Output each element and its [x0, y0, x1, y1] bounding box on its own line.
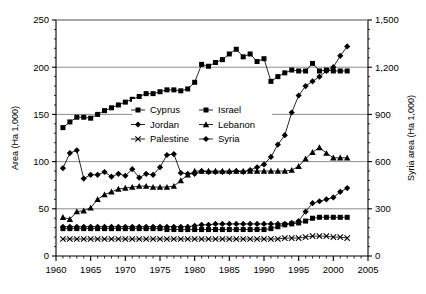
data-point-marker [324, 215, 329, 220]
y-tick-label: 200 [33, 62, 49, 73]
data-point-marker [227, 51, 232, 56]
data-point-marker [171, 87, 176, 92]
x-tick-label: 2005 [357, 264, 378, 275]
data-point-marker [137, 226, 142, 231]
data-point-marker [255, 59, 260, 64]
data-point-marker [102, 108, 107, 113]
y2-axis-title: Syria area (Ha 1,000) [406, 95, 416, 181]
data-point-marker [158, 226, 163, 231]
chart-background [0, 0, 426, 294]
data-point-marker [144, 91, 149, 96]
data-point-marker [262, 56, 267, 61]
data-point-marker [275, 74, 280, 79]
y-tick-label: 150 [33, 109, 49, 120]
data-point-marker [282, 222, 287, 227]
line-chart: 05010015020025003006009001,2001,50019601… [0, 0, 426, 294]
y-tick-label: 0 [44, 250, 49, 261]
data-point-marker [164, 227, 169, 232]
data-point-marker [178, 88, 183, 93]
data-point-marker [74, 115, 79, 120]
data-point-marker [123, 100, 128, 105]
x-tick-label: 1965 [80, 264, 101, 275]
data-point-marker [296, 68, 301, 73]
data-point-marker [206, 227, 211, 232]
data-point-marker [199, 62, 204, 67]
data-point-marker [171, 227, 176, 232]
data-point-marker [262, 227, 267, 232]
y2-tick-label: 600 [375, 156, 391, 167]
y2-tick-label: 1,200 [375, 62, 399, 73]
data-point-marker [204, 108, 209, 113]
data-point-marker [74, 226, 79, 231]
y-tick-label: 100 [33, 156, 49, 167]
data-point-marker [137, 94, 142, 99]
data-point-marker [151, 91, 156, 96]
data-point-marker [345, 68, 350, 73]
x-tick-label: 1990 [253, 264, 274, 275]
data-point-marker [227, 227, 232, 232]
data-point-marker [282, 70, 287, 75]
y2-tick-label: 900 [375, 109, 391, 120]
legend-label: Cyprus [150, 104, 180, 115]
x-tick-label: 1975 [149, 264, 170, 275]
data-point-marker [81, 226, 86, 231]
data-point-marker [88, 116, 93, 121]
data-point-marker [158, 89, 163, 94]
data-point-marker [241, 54, 246, 59]
data-point-marker [130, 226, 135, 231]
data-point-marker [310, 61, 315, 66]
data-point-marker [220, 57, 225, 62]
data-point-marker [213, 227, 218, 232]
data-point-marker [248, 51, 253, 56]
data-point-marker [289, 68, 294, 73]
y-tick-label: 250 [33, 14, 49, 25]
data-point-marker [185, 86, 190, 91]
data-point-marker [248, 227, 253, 232]
data-point-marker [60, 125, 65, 130]
data-point-marker [151, 226, 156, 231]
data-point-marker [67, 119, 72, 124]
legend-label: Lebanon [218, 119, 255, 130]
data-point-marker [102, 226, 107, 231]
data-point-marker [67, 226, 72, 231]
y2-tick-label: 0 [375, 250, 380, 261]
data-point-marker [109, 226, 114, 231]
data-point-marker [220, 227, 225, 232]
data-point-marker [234, 227, 239, 232]
data-point-marker [310, 216, 315, 221]
legend-label: Palestine [150, 133, 189, 144]
data-point-marker [206, 64, 211, 69]
data-point-marker [296, 220, 301, 225]
data-point-marker [275, 224, 280, 229]
y-tick-label: 50 [38, 203, 49, 214]
data-point-marker [116, 102, 121, 107]
data-point-marker [199, 227, 204, 232]
legend-label: Syria [218, 133, 240, 144]
x-tick-label: 1980 [184, 264, 205, 275]
data-point-marker [144, 226, 149, 231]
data-point-marker [95, 112, 100, 117]
y2-tick-label: 1,500 [375, 14, 399, 25]
data-point-marker [255, 227, 260, 232]
x-tick-label: 1970 [115, 264, 136, 275]
data-point-marker [109, 105, 114, 110]
data-point-marker [164, 87, 169, 92]
data-point-marker [123, 226, 128, 231]
data-point-marker [331, 215, 336, 220]
data-point-marker [81, 115, 86, 120]
data-point-marker [289, 221, 294, 226]
legend: CyprusIsraelJordanLebanonPalestineSyria [131, 99, 272, 147]
data-point-marker [116, 226, 121, 231]
data-point-marker [192, 80, 197, 85]
data-point-marker [303, 219, 308, 224]
data-point-marker [234, 47, 239, 52]
data-point-marker [268, 79, 273, 84]
data-point-marker [317, 215, 322, 220]
y-axis-title: Area (Ha 1,000) [10, 106, 20, 170]
data-point-marker [136, 108, 141, 113]
data-point-marker [60, 226, 65, 231]
x-tick-label: 1960 [45, 264, 66, 275]
x-tick-label: 2000 [323, 264, 344, 275]
data-point-marker [185, 227, 190, 232]
data-point-marker [317, 68, 322, 73]
